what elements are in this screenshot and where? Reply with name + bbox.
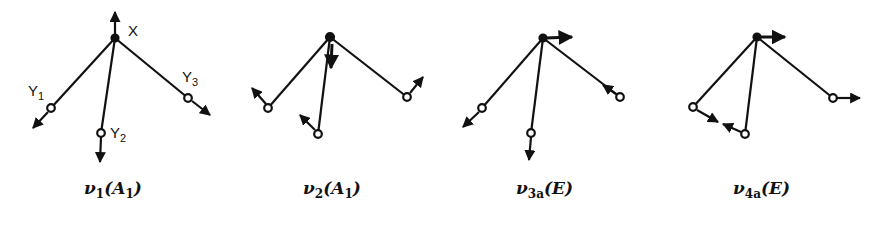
mode-v3a-diagram [463, 35, 624, 161]
x-atom [112, 35, 119, 42]
y1-displacement-arrow [252, 88, 266, 104]
label-y1: Y1 [28, 82, 44, 102]
y2-displacement-arrow [723, 124, 741, 132]
x-atom [754, 34, 761, 41]
y2-atom [741, 130, 749, 138]
y1-atom [689, 103, 697, 111]
label-x: X [128, 22, 138, 39]
y1-atom [264, 104, 272, 112]
y3-displacement-arrow [192, 101, 210, 115]
y3-atom [184, 94, 192, 102]
x-atom [540, 35, 547, 42]
y1-displacement-arrow [697, 110, 718, 122]
x-displacement-arrow [331, 44, 332, 68]
y2-atom [314, 130, 322, 138]
y3-atom [829, 94, 837, 102]
label-y3: Y3 [182, 68, 198, 88]
caption-v3a: ν3a(E) [516, 178, 573, 201]
x-displacement-arrow [546, 37, 572, 38]
label-y2: Y2 [110, 124, 126, 144]
caption-v1: ν1(A1) [84, 178, 142, 201]
y3-atom [616, 93, 624, 101]
caption-v4a: ν4a(E) [733, 178, 790, 201]
y1-atom [47, 104, 55, 112]
y1-displacement-arrow [463, 112, 479, 127]
y1-displacement-arrow [33, 112, 48, 128]
y2-displacement-arrow [300, 115, 315, 130]
y3-atom [403, 93, 411, 101]
mode-v2-diagram [252, 33, 423, 138]
y2-displacement-arrow [529, 137, 531, 160]
y3-displacement-arrow [410, 77, 423, 93]
y2-atom [527, 129, 535, 137]
y1-atom [478, 104, 486, 112]
y2-displacement-arrow [100, 137, 101, 162]
y3-displacement-arrow [603, 85, 616, 94]
mode-v4a-diagram [689, 34, 860, 138]
caption-v2: ν2(A1) [303, 178, 361, 201]
x-atom [326, 33, 334, 41]
y2-atom [97, 129, 105, 137]
